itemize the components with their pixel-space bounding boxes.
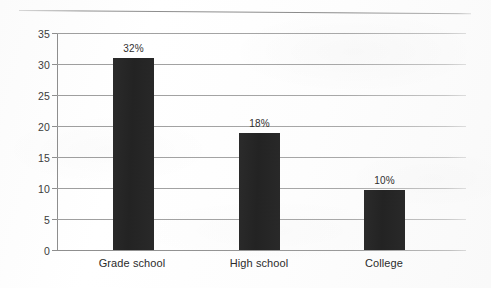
y-tick-label-15: 15 [4,153,50,164]
bar-college[interactable] [364,190,405,250]
y-tick-label-20: 20 [4,122,50,133]
y-axis-tick-labels: 35 30 25 20 15 10 5 0 [0,0,50,288]
x-axis-label-college: College [324,258,444,269]
y-tick-label-5: 5 [4,215,50,226]
bar-high-school[interactable] [239,133,280,250]
gridline-35 [57,33,466,34]
bar-value-label-high-school: 18% [230,119,290,129]
bar-grade-school[interactable] [113,58,154,250]
y-tick-label-25: 25 [4,91,50,102]
top-horizontal-rule [19,10,471,14]
y-tick-label-30: 30 [4,60,50,71]
x-axis-label-high-school: High school [199,258,319,269]
y-tick-label-0: 0 [4,246,50,257]
bar-value-label-grade-school: 32% [104,44,164,54]
x-axis-label-grade-school: Grade school [72,258,192,269]
plot-area [57,33,466,250]
bar-chart-figure: 35 30 25 20 15 10 5 0 32% 18% 10% Grade … [0,0,491,288]
y-tick-label-35: 35 [4,29,50,40]
bar-value-label-college: 10% [355,176,415,186]
gridline-baseline-0 [57,250,466,251]
y-tick-label-10: 10 [4,184,50,195]
